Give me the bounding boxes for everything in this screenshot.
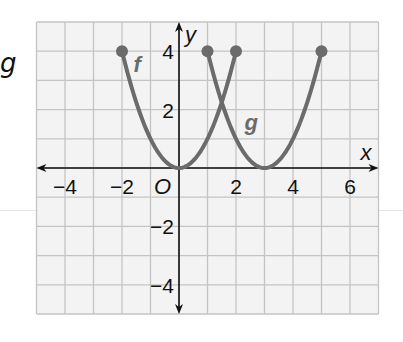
curve-label-g: g [244,110,259,135]
coordinate-plane: fg−4−224642−2−4Oxy [0,0,403,342]
x-tick-label: −4 [53,175,77,198]
x-tick-label: 6 [344,175,356,198]
y-tick-label: −4 [150,274,174,297]
y-axis-label: y [183,22,198,47]
endpoint-dot-g [202,45,214,57]
endpoint-dot-f [116,45,128,57]
graph-figure: g fg−4−224642−2−4Oxy [0,0,403,342]
endpoint-dot-g [316,45,328,57]
y-tick-label: 2 [162,99,174,122]
x-tick-label: 2 [230,175,242,198]
x-tick-label: −2 [110,175,134,198]
y-tick-label: −2 [150,215,174,238]
x-axis-label: x [360,140,373,165]
origin-label: O [154,174,171,199]
y-tick-label: 4 [162,40,174,63]
x-tick-label: 4 [287,175,299,198]
endpoint-dot-f [230,45,242,57]
